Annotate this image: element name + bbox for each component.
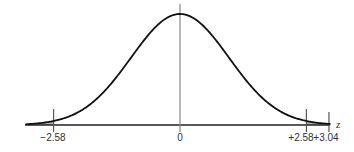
- tick-label-neg-2-58: −2.58: [40, 132, 66, 143]
- normal-distribution-chart: z −2.58 0 +2.58 +3.04: [0, 0, 354, 152]
- tick-label-zero: 0: [177, 132, 183, 143]
- axis-variable-label: z: [335, 118, 341, 130]
- vertical-markers: [54, 4, 329, 132]
- tick-label-pos-3-04: +3.04: [313, 132, 339, 143]
- normal-curve: [26, 14, 331, 124]
- tick-label-pos-2-58: +2.58: [288, 132, 314, 143]
